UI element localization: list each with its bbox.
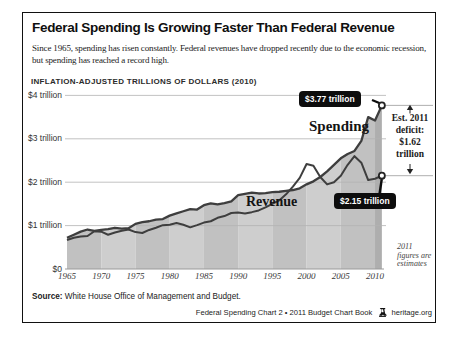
source-text: White House Office of Management and Bud… xyxy=(62,292,240,301)
estimates-note: 2011 figures are estimates xyxy=(397,243,431,269)
x-tick-label: 2005 xyxy=(324,272,358,281)
y-tick-label: $1 trillion xyxy=(20,221,62,230)
revenue-value-callout: $2.15 trillion xyxy=(334,193,396,209)
spending-endpoint-marker xyxy=(379,102,385,108)
page: Federal Spending Is Growing Faster Than … xyxy=(0,0,463,340)
x-tick-label: 2010 xyxy=(358,272,392,281)
x-tick-label: 2000 xyxy=(290,272,324,281)
estimates-note-line-3: estimates xyxy=(397,260,431,269)
x-tick-label: 1980 xyxy=(153,272,187,281)
x-tick-label: 1995 xyxy=(255,272,289,281)
deficit-line-1: Est. 2011 xyxy=(381,112,439,124)
spending-series-label: Spending xyxy=(309,118,369,135)
footer-site: heritage.org xyxy=(391,308,432,317)
footer-text: Federal Spending Chart 2 • 2011 Budget C… xyxy=(196,308,372,317)
y-tick-label: $3 trillion xyxy=(20,134,62,143)
area-bands xyxy=(67,87,383,269)
footer: Federal Spending Chart 2 • 2011 Budget C… xyxy=(22,307,432,317)
deficit-line-4: trillion xyxy=(381,148,439,160)
source-line: Source: White House Office of Management… xyxy=(32,292,241,301)
x-tick-label: 1975 xyxy=(118,272,152,281)
revenue-series-label: Revenue xyxy=(246,194,297,210)
deficit-line-3: $1.62 xyxy=(381,136,439,148)
heritage-logo-icon xyxy=(378,308,387,317)
revenue-endpoint-marker xyxy=(379,173,385,179)
y-tick-label: $2 trillion xyxy=(20,178,62,187)
x-tick-label: 1990 xyxy=(221,272,255,281)
spending-value-callout: $3.77 trillion xyxy=(299,91,361,107)
y-tick-label: $4 trillion xyxy=(20,91,62,100)
x-tick-label: 1970 xyxy=(84,272,118,281)
x-tick-label: 1965 xyxy=(50,272,84,281)
deficit-line-2: deficit: xyxy=(381,124,439,136)
deficit-annotation: Est. 2011 deficit: $1.62 trillion xyxy=(381,112,439,160)
source-label: Source: xyxy=(32,292,62,301)
x-tick-label: 1985 xyxy=(187,272,221,281)
